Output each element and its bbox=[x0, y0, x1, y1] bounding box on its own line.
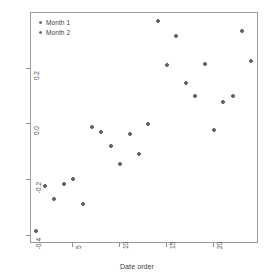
data-point bbox=[240, 29, 244, 33]
y-tick-mark bbox=[26, 123, 30, 124]
x-tick-label: 20 bbox=[216, 242, 223, 249]
data-point bbox=[231, 94, 235, 98]
legend-label: Month 2 bbox=[46, 28, 70, 37]
y-tick-label: 0.2 bbox=[33, 71, 40, 80]
data-point bbox=[137, 152, 141, 156]
scatter-plot-figure: Month 1 Month 2 5101520 0.20.0-0.2-0.4 D… bbox=[0, 0, 274, 278]
legend-marker-icon bbox=[39, 21, 42, 24]
data-point bbox=[90, 125, 94, 129]
x-tick-mark bbox=[213, 243, 214, 247]
x-tick-mark bbox=[119, 243, 120, 247]
x-tick-mark bbox=[166, 243, 167, 247]
legend-item-month-2: Month 2 bbox=[38, 28, 70, 37]
data-point bbox=[62, 182, 66, 186]
data-point bbox=[184, 81, 188, 85]
data-point bbox=[221, 100, 225, 104]
data-point bbox=[212, 128, 216, 132]
data-point bbox=[81, 202, 85, 206]
legend-item-month-1: Month 1 bbox=[38, 18, 70, 27]
data-point bbox=[109, 144, 113, 148]
y-tick-mark bbox=[26, 235, 30, 236]
x-tick-label: 15 bbox=[169, 242, 176, 249]
plot-area bbox=[31, 13, 257, 242]
data-point bbox=[156, 19, 160, 23]
data-point bbox=[118, 162, 122, 166]
data-point bbox=[174, 34, 178, 38]
plot-frame: Month 1 Month 2 bbox=[30, 12, 258, 243]
y-tick-label: -0.2 bbox=[35, 182, 42, 193]
legend-label: Month 1 bbox=[46, 18, 70, 27]
data-point bbox=[249, 59, 253, 63]
data-point bbox=[193, 94, 197, 98]
data-point bbox=[146, 122, 150, 126]
y-tick-label: 0.0 bbox=[33, 126, 40, 135]
legend-marker-icon bbox=[39, 31, 42, 34]
data-point bbox=[203, 62, 207, 66]
data-point bbox=[43, 184, 47, 188]
y-tick-mark bbox=[26, 68, 30, 69]
x-tick-label: 5 bbox=[75, 245, 82, 249]
data-point bbox=[99, 130, 103, 134]
y-tick-label: -0.4 bbox=[35, 238, 42, 249]
data-point bbox=[71, 177, 75, 181]
data-point bbox=[165, 63, 169, 67]
x-tick-mark bbox=[72, 243, 73, 247]
data-point bbox=[34, 229, 38, 233]
legend: Month 1 Month 2 bbox=[36, 17, 72, 39]
data-point bbox=[52, 197, 56, 201]
y-tick-mark bbox=[26, 179, 30, 180]
x-axis-label: Date order bbox=[0, 263, 274, 270]
x-tick-label: 10 bbox=[122, 242, 129, 249]
data-point bbox=[128, 132, 132, 136]
y-axis-label: First PC bbox=[4, 0, 16, 12]
